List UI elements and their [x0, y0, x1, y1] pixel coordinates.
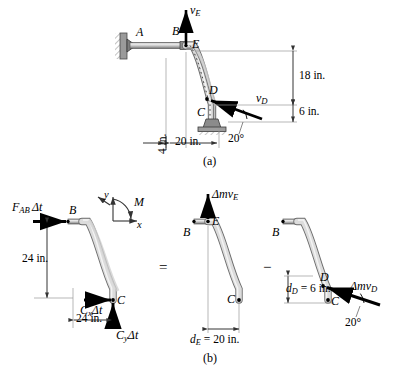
axis-y-label: y: [104, 190, 109, 201]
dim-4in-label: 4 in.: [157, 134, 169, 154]
point-C-marker-mid: [237, 298, 241, 302]
label-vE-subscript: E: [195, 8, 200, 18]
dim-24in-horizontal-label: 24 in.: [76, 313, 102, 325]
label-vD: vD: [256, 92, 268, 106]
rod-AB: [130, 43, 186, 49]
label-dmvD-subscript: D: [371, 284, 377, 294]
label-dmvD-symbol: Δmv: [350, 279, 371, 293]
caption-a: (a): [203, 155, 216, 167]
dim-dE-subscript: E: [196, 338, 201, 347]
label-point-C-mid: C: [227, 293, 235, 305]
dim-18in-label: 18 in.: [299, 70, 325, 82]
label-FAB-dt: FABΔt: [12, 201, 42, 215]
label-point-E-mid: E: [212, 215, 219, 227]
label-point-E: E: [192, 38, 199, 50]
label-FAB-suffix: Δt: [32, 200, 42, 214]
label-FAB-subscript: AB: [19, 205, 30, 215]
label-point-B: B: [172, 25, 179, 37]
dim-24in-vertical-label: 24 in.: [22, 253, 48, 265]
axis-x-label: x: [137, 220, 142, 231]
label-dmvE-symbol: Δmv: [212, 187, 233, 201]
label-point-B-left: B: [69, 204, 76, 216]
label-dmvE: ΔmvE: [212, 188, 238, 202]
angle-20deg-label-b: 20°: [345, 317, 361, 329]
label-Cy-symbol: C: [116, 328, 124, 342]
label-point-D: D: [209, 84, 218, 96]
label-Cy-dt: CyΔt: [116, 329, 138, 343]
label-Cy-suffix: Δt: [128, 328, 138, 342]
pin-support-C: [198, 119, 226, 135]
velocity-vD-arrow: [211, 101, 262, 120]
dim-dE-value: = 20 in.: [204, 333, 240, 345]
mechanics-figure: [0, 0, 417, 389]
operator-equals: =: [159, 260, 167, 275]
dim-dD-value: = 6 in.: [301, 282, 331, 294]
point-E-marker: [184, 44, 187, 47]
dim-6in-label: 6 in.: [299, 106, 319, 118]
rod-BC-highlight-mid: [209, 220, 238, 299]
moment-M-label: M: [134, 196, 144, 208]
point-B-marker-left: [66, 220, 69, 223]
label-point-B-right: B: [272, 226, 279, 238]
label-point-C-left: C: [117, 294, 125, 306]
dim-dD-label: dD= 6 in.: [286, 283, 331, 297]
rod-BC-body-mid: [208, 222, 239, 301]
dim-20in-label: 20 in.: [175, 136, 201, 148]
dim-dD-subscript: D: [292, 287, 298, 296]
label-dmvD: ΔmvD: [350, 280, 377, 294]
rod-BC-glow-left: [89, 220, 118, 291]
point-D-marker: [205, 97, 209, 101]
point-C-marker-left: [111, 298, 115, 302]
label-point-A: A: [136, 26, 143, 38]
point-B-marker-right: [281, 220, 284, 223]
point-E-marker-mid: [206, 220, 210, 224]
point-C-marker-right: [326, 298, 330, 302]
label-point-C: C: [197, 106, 205, 118]
rod-BC-outer-mid: [208, 222, 239, 301]
label-vD-subscript: D: [261, 96, 267, 106]
dim-dE-label: dE= 20 in.: [190, 334, 239, 348]
label-point-C-right: C: [331, 295, 339, 307]
angle-20deg-label-a: 20°: [228, 133, 244, 145]
label-dmvE-subscript: E: [233, 192, 238, 202]
label-point-B-mid: B: [183, 226, 190, 238]
caption-b: (b): [203, 352, 217, 364]
axes-gizmo: [98, 197, 137, 221]
label-vE: vE: [190, 4, 201, 18]
point-B-marker-mid: [192, 220, 195, 223]
operator-minus: −: [263, 260, 271, 275]
